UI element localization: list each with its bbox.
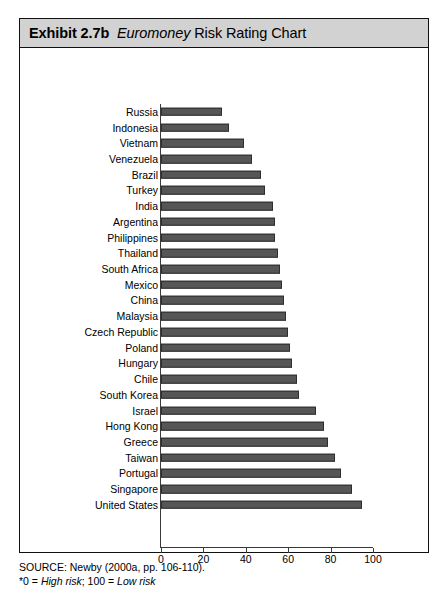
bar-track	[161, 340, 373, 356]
bar-row: China	[20, 293, 428, 309]
bar	[161, 359, 292, 368]
bar-row: Portugal	[20, 466, 428, 482]
bar-category-label: Mexico	[125, 279, 158, 291]
bar	[161, 438, 328, 447]
bar-row: Israel	[20, 403, 428, 419]
bar-category-label: Hong Kong	[105, 420, 158, 432]
bar-category-label: Taiwan	[125, 452, 158, 464]
bar-rows: RussiaIndonesiaVietnamVenezuelaBrazilTur…	[20, 104, 428, 513]
bar-track	[161, 324, 373, 340]
y-axis-line	[160, 104, 161, 548]
bar-track	[161, 371, 373, 387]
bar-category-label: Singapore	[110, 483, 158, 495]
x-axis-tick-label: 100	[364, 553, 382, 565]
bar-category-label: United States	[95, 499, 158, 511]
bar-track	[161, 104, 373, 120]
bar-row: India	[20, 198, 428, 214]
bar-category-label: Greece	[124, 436, 158, 448]
note-middle: ; 100 =	[82, 575, 117, 587]
bar-track	[161, 418, 373, 434]
bar-track	[161, 481, 373, 497]
risk-note-line: *0 = High risk; 100 = Low risk	[19, 575, 429, 589]
exhibit-container: Exhibit 2.7b Euromoney Risk Rating Chart…	[19, 18, 429, 595]
exhibit-number: Exhibit 2.7b	[29, 25, 109, 41]
bar	[161, 391, 299, 400]
bar-row: Singapore	[20, 481, 428, 497]
bar-row: South Africa	[20, 261, 428, 277]
bar-category-label: Israel	[132, 405, 158, 417]
bar	[161, 139, 244, 148]
bar-track	[161, 356, 373, 372]
bar-track	[161, 214, 373, 230]
bar-row: Brazil	[20, 167, 428, 183]
bar-row: Indonesia	[20, 120, 428, 136]
bar	[161, 108, 222, 117]
bar-track	[161, 167, 373, 183]
exhibit-header-band: Exhibit 2.7b Euromoney Risk Rating Chart	[19, 18, 429, 48]
bar	[161, 453, 335, 462]
bar	[161, 265, 280, 274]
bar-row: Poland	[20, 340, 428, 356]
bar-category-label: Chile	[134, 373, 158, 385]
bar-category-label: Turkey	[126, 184, 158, 196]
bar-track	[161, 198, 373, 214]
bar-row: Argentina	[20, 214, 428, 230]
bar-track	[161, 387, 373, 403]
bar-category-label: Vietnam	[120, 137, 158, 149]
page-title: Exhibit 2.7b Euromoney Risk Rating Chart	[29, 25, 306, 41]
bar-track	[161, 245, 373, 261]
bar	[161, 312, 286, 321]
bar-category-label: Poland	[125, 342, 158, 354]
bar	[161, 328, 288, 337]
bar-track	[161, 466, 373, 482]
bar-track	[161, 261, 373, 277]
bar-row: Vietnam	[20, 135, 428, 151]
bar-track	[161, 293, 373, 309]
bar-category-label: South Africa	[101, 263, 158, 275]
bar	[161, 249, 278, 258]
bar	[161, 280, 282, 289]
x-axis-tick-label: 40	[240, 553, 252, 565]
bar	[161, 123, 229, 132]
bar-row: Czech Republic	[20, 324, 428, 340]
x-axis-tick-label: 60	[282, 553, 294, 565]
note-prefix: *0 =	[19, 575, 41, 587]
note-low-risk: Low risk	[117, 575, 156, 587]
bar-category-label: Venezuela	[109, 153, 158, 165]
bar-track	[161, 151, 373, 167]
bar-category-label: Hungary	[118, 357, 158, 369]
bar	[161, 343, 290, 352]
x-axis-tick-label: 80	[325, 553, 337, 565]
bar-category-label: China	[131, 294, 158, 306]
bar-category-label: Argentina	[113, 216, 158, 228]
bar-category-label: Thailand	[118, 247, 158, 259]
bar-track	[161, 450, 373, 466]
bar-row: Hong Kong	[20, 418, 428, 434]
bar-row: Taiwan	[20, 450, 428, 466]
bar	[161, 422, 324, 431]
bar-category-label: Portugal	[119, 467, 158, 479]
bar	[161, 469, 341, 478]
exhibit-title-italic: Euromoney	[117, 25, 190, 41]
bar-row: Turkey	[20, 183, 428, 199]
bar	[161, 202, 273, 211]
bar	[161, 296, 284, 305]
bar-row: Thailand	[20, 245, 428, 261]
bar-chart-plot: RussiaIndonesiaVietnamVenezuelaBrazilTur…	[20, 48, 428, 552]
bar-category-label: Indonesia	[112, 122, 158, 134]
bar-row: Philippines	[20, 230, 428, 246]
bar-category-label: Czech Republic	[84, 326, 158, 338]
bar-row: Mexico	[20, 277, 428, 293]
bar-category-label: India	[135, 200, 158, 212]
bar	[161, 186, 265, 195]
bar-category-label: Brazil	[132, 169, 158, 181]
bar	[161, 233, 275, 242]
x-axis-line	[160, 547, 373, 548]
bar-row: United States	[20, 497, 428, 513]
bar	[161, 218, 275, 227]
bar-row: Hungary	[20, 356, 428, 372]
bar-row: Russia	[20, 104, 428, 120]
bar-track	[161, 120, 373, 136]
bar	[161, 155, 252, 164]
x-axis-tick-label: 0	[158, 553, 164, 565]
